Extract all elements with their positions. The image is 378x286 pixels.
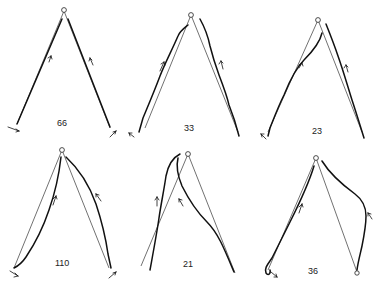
panel-36: 36 [265, 156, 372, 277]
pivot-icon [62, 8, 67, 13]
arrow-upleft-icon [129, 133, 134, 137]
panel-label: 21 [183, 259, 193, 269]
panel-66: 66 [8, 8, 116, 137]
trace-left [265, 166, 314, 274]
arrow-up-icon [368, 213, 372, 219]
panel-label: 23 [312, 126, 322, 136]
arrow-up-icon [299, 204, 303, 213]
panel-21: 21 [141, 152, 235, 273]
pivot-icon [186, 152, 191, 157]
guide-line-right [316, 158, 357, 272]
trace-right [68, 19, 110, 127]
panel-label: 110 [55, 258, 69, 268]
trace-left [150, 154, 180, 270]
pivot-icon [60, 148, 65, 153]
panel-label: 66 [57, 118, 67, 128]
guide-line-right [191, 15, 238, 132]
trace-right [200, 19, 239, 136]
figure-canvas: 66 33 23 110 [0, 0, 378, 286]
panel-110: 110 [10, 148, 116, 278]
arrow-up-icon [219, 61, 223, 69]
arrow-right-icon [8, 127, 19, 132]
panel-23: 23 [261, 18, 364, 139]
pivot-icon [189, 13, 194, 18]
arrow-upleft-icon [261, 134, 266, 139]
panel-33: 33 [129, 13, 239, 137]
guide-line-left [145, 15, 191, 128]
guide-line-right [188, 154, 235, 273]
panel-label: 33 [184, 123, 194, 133]
trace-left [268, 33, 322, 136]
arrow-up-icon [179, 199, 183, 206]
trace-right [66, 157, 111, 268]
arrow-up-icon [96, 194, 101, 201]
guide-line-left [14, 150, 62, 268]
guide-line-left [141, 154, 188, 266]
arrow-upright-icon [110, 131, 116, 137]
trace-right [326, 24, 364, 138]
guide-line-right [318, 20, 362, 132]
trace-right [177, 158, 234, 272]
arrow-up-icon [344, 65, 348, 72]
guide-line-right [62, 150, 109, 268]
arrow-up-icon [48, 56, 52, 62]
arrow-up-icon [155, 197, 159, 206]
trace-left [17, 19, 62, 124]
pivot-icon [316, 18, 321, 23]
figure-caption [8, 274, 370, 282]
pivot-icon [314, 156, 319, 161]
trace-right [322, 161, 366, 270]
arrow-up-icon [89, 58, 93, 65]
